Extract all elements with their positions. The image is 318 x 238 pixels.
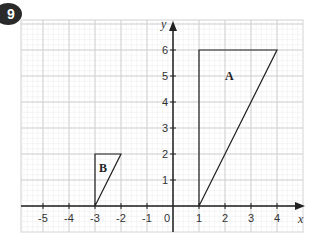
y-tick-label: 3 [162, 122, 168, 134]
y-axis-label: y [160, 17, 167, 31]
x-tick-label: -3 [90, 212, 100, 224]
y-tick-label: 5 [162, 70, 168, 82]
x-tick-label: 1 [196, 212, 202, 224]
x-tick-label: -5 [38, 212, 48, 224]
x-tick-label: 4 [274, 212, 280, 224]
x-tick-label: 0 [164, 212, 170, 224]
x-tick-label: 3 [248, 212, 254, 224]
x-tick-label: 2 [222, 212, 228, 224]
x-axis-label: x [297, 212, 304, 226]
x-tick-label: -2 [116, 212, 126, 224]
x-tick-label: -4 [64, 212, 74, 224]
x-tick-label: -1 [142, 212, 152, 224]
y-tick-label: 2 [162, 148, 168, 160]
y-tick-label: 6 [162, 44, 168, 56]
shape-label-a: A [225, 69, 234, 83]
coordinate-grid: -5-4-3-2-101234123456xyAB [0, 0, 318, 238]
y-tick-label: 1 [162, 174, 168, 186]
shape-label-b: B [99, 161, 107, 175]
y-tick-label: 4 [162, 96, 168, 108]
